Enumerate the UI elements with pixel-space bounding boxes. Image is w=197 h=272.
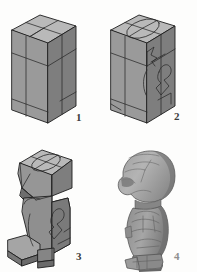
panel-step-4: Finished smoothly rounded figure with mo… (99, 136, 197, 272)
figure-sheet: Plain rectangular stone block in three-q… (0, 0, 197, 272)
step-number-3: 3 (76, 251, 82, 262)
drawing-step-4 (99, 136, 197, 272)
step-number-1: 1 (76, 112, 82, 123)
panel-step-1: Plain rectangular stone block in three-q… (0, 0, 98, 136)
drawing-step-3 (0, 136, 98, 272)
drawing-step-1 (0, 0, 98, 136)
drawing-step-2 (99, 0, 197, 136)
step-number-4: 4 (174, 251, 180, 262)
panel-step-3: Block roughly cut away: the head mass is… (0, 136, 98, 272)
panel-step-2: Same block with curved layout lines draw… (99, 0, 197, 136)
step-number-2: 2 (174, 111, 180, 122)
